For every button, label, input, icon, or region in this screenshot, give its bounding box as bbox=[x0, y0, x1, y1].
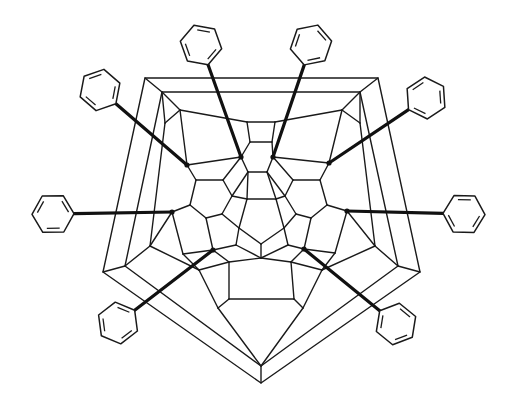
cage-edge bbox=[165, 110, 180, 123]
phenyl-bond bbox=[273, 65, 304, 157]
cage-edge bbox=[172, 212, 183, 254]
cage-edge bbox=[273, 157, 293, 180]
cage-edge bbox=[284, 214, 296, 228]
phenyl-ring bbox=[99, 302, 138, 344]
cage-edge bbox=[322, 246, 375, 270]
phenyl-ring bbox=[443, 196, 485, 233]
cage-edge bbox=[247, 122, 250, 142]
double-bond bbox=[440, 91, 441, 104]
cage-edge bbox=[261, 258, 291, 262]
fullerene-diagram: Schlegel diagram of a fullerene cage bea… bbox=[0, 0, 515, 402]
cage-edge bbox=[291, 249, 304, 262]
phenyl-bond bbox=[329, 110, 409, 163]
spoke-edge bbox=[360, 78, 378, 92]
cage-edge bbox=[303, 270, 322, 308]
phenyl-ring bbox=[180, 25, 221, 65]
cage-edge bbox=[241, 142, 250, 157]
cage-edge bbox=[327, 205, 347, 211]
phenyl-ring bbox=[290, 25, 331, 65]
spoke-edge bbox=[103, 266, 125, 272]
fullerene-schlegel-svg bbox=[0, 0, 515, 402]
cage-edge bbox=[320, 163, 329, 180]
attachment-node bbox=[344, 208, 349, 213]
phenyl-ring bbox=[80, 69, 120, 110]
cage-edge bbox=[190, 180, 196, 205]
benzene-hexagon bbox=[407, 77, 445, 119]
benzene-hexagon bbox=[32, 196, 74, 233]
cage-edge bbox=[236, 228, 239, 245]
cage-edge bbox=[291, 262, 322, 270]
cage-edge bbox=[267, 172, 285, 196]
cage-edge bbox=[342, 92, 360, 110]
phenyl-ring bbox=[32, 196, 74, 233]
phenyl-bond bbox=[304, 249, 380, 311]
cage-edge bbox=[342, 110, 360, 123]
cage-edge bbox=[236, 245, 261, 258]
cage-edge bbox=[267, 172, 276, 199]
cage-edge bbox=[187, 165, 196, 180]
benzene-hexagon bbox=[443, 196, 485, 233]
cage-edge bbox=[247, 172, 248, 199]
cage-edge bbox=[218, 299, 229, 308]
benzene-hexagon bbox=[80, 69, 120, 110]
cage-edge bbox=[261, 228, 284, 244]
spoke-edge bbox=[398, 266, 420, 272]
phenyl-ring bbox=[407, 77, 445, 119]
cage-edge bbox=[232, 172, 248, 196]
cage-edge bbox=[213, 250, 229, 262]
cage-edge bbox=[222, 196, 232, 214]
fullerene-cage bbox=[103, 78, 420, 383]
cage-edge bbox=[222, 214, 239, 228]
cage-edge bbox=[304, 218, 311, 249]
cage-edge bbox=[199, 262, 229, 270]
spoke-edge bbox=[145, 78, 162, 92]
cage-edge bbox=[229, 258, 261, 262]
attachment-node bbox=[169, 209, 174, 214]
phenyl-ring bbox=[376, 303, 415, 344]
phenyl-substituents bbox=[32, 25, 485, 345]
attachment-node bbox=[210, 247, 215, 252]
cage-edge bbox=[213, 245, 236, 250]
cage-edge bbox=[180, 110, 187, 165]
cage-edge bbox=[273, 157, 329, 163]
cage-edge bbox=[311, 205, 327, 218]
cage-edge bbox=[199, 270, 218, 308]
cage-edge bbox=[261, 245, 288, 258]
cage-edge bbox=[291, 262, 294, 299]
cage-edge bbox=[285, 180, 293, 196]
cage-edge bbox=[206, 218, 213, 250]
attachment-node bbox=[238, 154, 243, 159]
cage-edge bbox=[223, 157, 241, 180]
attachment-node bbox=[184, 162, 189, 167]
cage-edge bbox=[162, 92, 165, 123]
cage-edge bbox=[276, 199, 284, 228]
phenyl-bond bbox=[347, 211, 443, 213]
second-pentagon bbox=[125, 92, 398, 366]
cage-edge bbox=[284, 228, 288, 245]
cage-edge bbox=[276, 196, 285, 199]
cage-edge bbox=[172, 205, 190, 212]
cage-edge bbox=[272, 122, 275, 142]
cage-edge bbox=[294, 299, 303, 308]
cage-edge bbox=[223, 180, 232, 196]
cage-edge bbox=[206, 214, 222, 218]
cage-edge bbox=[320, 180, 327, 205]
attachment-node bbox=[326, 160, 331, 165]
attachment-node bbox=[270, 154, 275, 159]
cage-edge bbox=[296, 214, 311, 218]
attachment-node bbox=[301, 246, 306, 251]
cage-edge bbox=[162, 92, 180, 110]
cage-edge bbox=[239, 228, 261, 244]
cage-edge bbox=[187, 157, 241, 165]
cage-edge bbox=[335, 211, 347, 253]
phenyl-bond bbox=[74, 212, 172, 214]
benzene-hexagon bbox=[180, 25, 221, 65]
cage-edge bbox=[232, 196, 247, 199]
cage-edge bbox=[180, 110, 247, 122]
benzene-hexagon bbox=[376, 303, 415, 344]
cage-edge bbox=[190, 205, 206, 218]
benzene-hexagon bbox=[99, 302, 138, 344]
cage-edge bbox=[239, 199, 247, 228]
cage-edge bbox=[285, 196, 296, 214]
